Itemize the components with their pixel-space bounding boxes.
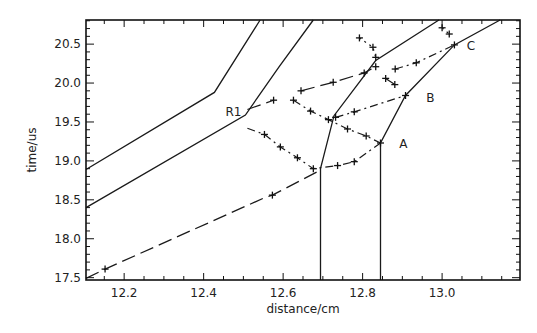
plus-marker-icon — [372, 54, 379, 61]
plus-marker-icon — [310, 165, 317, 172]
plus-marker-icon — [391, 81, 398, 88]
x-tick-label: 12.4 — [190, 286, 217, 300]
to-C — [395, 45, 454, 69]
x-tick-label: 12.8 — [349, 286, 376, 300]
annotation-label: R1 — [226, 105, 242, 119]
plus-marker-icon — [270, 97, 277, 104]
plus-marker-icon — [294, 154, 301, 161]
y-tick-label: 20.0 — [54, 76, 81, 90]
plus-marker-icon — [413, 59, 420, 66]
plus-marker-icon — [298, 87, 305, 94]
plus-marker-icon — [325, 116, 332, 123]
plus-marker-icon — [334, 162, 341, 169]
plus-marker-icon — [307, 108, 314, 115]
y-tick-label: 19.5 — [54, 115, 81, 129]
plus-marker-icon — [102, 266, 109, 273]
x-axis-label: distance/cm — [266, 302, 339, 316]
paths-layer — [247, 28, 454, 169]
y-tick-label: 20.5 — [54, 37, 81, 51]
C-upper-short — [442, 28, 449, 34]
solid-line-2 — [86, 20, 313, 208]
plus-marker-icon — [330, 79, 337, 86]
x-tick-label: 12.2 — [111, 286, 138, 300]
annotation-label: A — [399, 137, 408, 151]
chart: R1ABC 12.212.412.612.813.017.518.018.519… — [0, 0, 537, 333]
y-tick-label: 18.5 — [54, 193, 81, 207]
y-axis-label: time/us — [25, 127, 39, 172]
plus-marker-icon — [382, 75, 389, 82]
plus-marker-icon — [344, 125, 351, 132]
R1-upper-short — [247, 100, 273, 109]
annotation-label: B — [426, 91, 434, 105]
annotation-label: C — [467, 39, 475, 53]
solid-line-1 — [86, 20, 260, 170]
plus-marker-icon — [351, 108, 358, 115]
plus-marker-icon — [361, 69, 368, 76]
axes-frame: 12.212.412.612.813.017.518.018.519.019.5… — [54, 20, 520, 300]
plus-marker-icon — [363, 132, 370, 139]
y-tick-label: 17.5 — [54, 271, 81, 285]
plus-marker-icon — [290, 97, 297, 104]
plus-marker-icon — [269, 192, 276, 199]
plus-marker-icon — [392, 66, 399, 73]
x-tick-label: 12.6 — [270, 286, 297, 300]
y-tick-label: 18.0 — [54, 232, 81, 246]
junction-short — [386, 78, 395, 84]
plus-marker-icon — [351, 158, 358, 165]
plus-marker-icon — [277, 143, 284, 150]
plus-marker-icon — [356, 34, 363, 41]
solid-line-3 — [321, 20, 439, 280]
plus-marker-icon — [369, 44, 376, 51]
x-tick-label: 13.0 — [429, 286, 456, 300]
y-tick-label: 19.0 — [54, 154, 81, 168]
figure-caption — [0, 318, 537, 333]
plot-frame — [86, 20, 520, 280]
series-layer — [86, 20, 500, 280]
